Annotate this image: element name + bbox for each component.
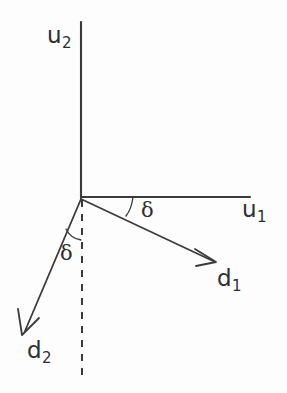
vector-label-d1-subscript: 1 xyxy=(232,277,242,295)
vector-line-d2 xyxy=(25,199,81,331)
vector-label-d1: d1 xyxy=(217,267,242,294)
angle-arc-delta-1 xyxy=(126,197,133,216)
vector-label-d2-subscript: 2 xyxy=(42,349,52,367)
axis-label-u1: u1 xyxy=(242,198,267,225)
axis-label-u2-base: u xyxy=(47,22,62,48)
vector-label-d2: d2 xyxy=(27,339,52,366)
angle-label-delta-2: δ xyxy=(60,243,73,264)
vector-label-d2-base: d xyxy=(27,337,42,363)
axis-label-u1-base: u xyxy=(242,196,257,222)
angle-label-delta-1: δ xyxy=(141,200,154,221)
vector-label-d1-base: d xyxy=(217,265,232,291)
axis-label-u2-subscript: 2 xyxy=(62,34,72,52)
axis-label-u1-subscript: 1 xyxy=(257,208,267,226)
axis-label-u2: u2 xyxy=(47,24,72,51)
vector-diagram-figure: u2 u1 d1 d2 δ δ xyxy=(0,0,287,393)
